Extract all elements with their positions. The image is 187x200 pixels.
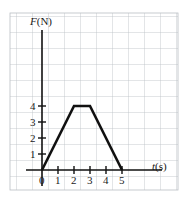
- x-tick-label-0: 0: [39, 175, 45, 186]
- y-tick-label-2: 2: [30, 133, 36, 144]
- y-axis-title-unit: (N): [37, 15, 52, 27]
- x-tick-label-2: 2: [71, 175, 77, 186]
- y-tick-label-1: 1: [30, 149, 36, 160]
- force-time-graph-figure: F(N) t(s) 4 3 2 1 0 1 2 3 4 5: [0, 0, 187, 200]
- y-tick-label-4: 4: [30, 101, 36, 112]
- x-tick-label-5: 5: [119, 175, 125, 186]
- x-tick-label-3: 3: [87, 175, 93, 186]
- x-axis-title-unit: (s): [155, 160, 167, 172]
- y-axis-title-symbol: F: [30, 15, 37, 27]
- y-axis-title: F(N): [30, 16, 52, 27]
- x-tick-label-4: 4: [103, 175, 109, 186]
- x-tick-label-1: 1: [55, 175, 61, 186]
- y-tick-label-3: 3: [30, 117, 36, 128]
- x-axis-title: t(s): [152, 161, 167, 172]
